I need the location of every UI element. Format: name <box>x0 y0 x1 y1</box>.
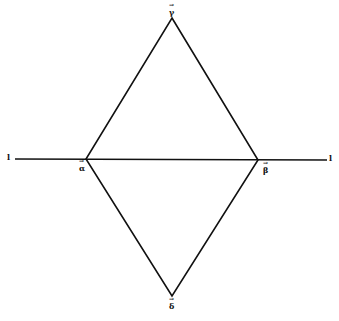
horizontal-line <box>15 159 327 160</box>
diagram-canvas <box>0 0 339 321</box>
vertex-right-label: β <box>263 166 268 174</box>
rhombus <box>86 18 258 296</box>
line-left-label: l <box>7 153 10 161</box>
vertex-left-label: α <box>79 164 85 172</box>
vertex-top-label: γ <box>169 8 174 16</box>
vertex-bottom-label: δ <box>169 302 174 310</box>
line-right-label: l <box>329 154 332 162</box>
